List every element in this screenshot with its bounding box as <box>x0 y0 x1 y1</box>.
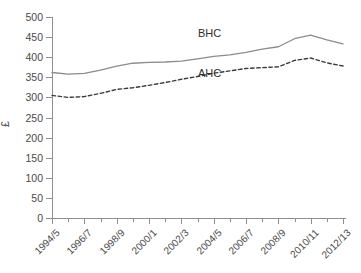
x-tick-mark-minor <box>101 219 102 222</box>
y-tick-label: 50 <box>3 193 43 203</box>
x-tick-label: 2002/3 <box>155 227 191 263</box>
x-tick-mark-minor <box>230 219 231 222</box>
series-annotation-bhc: BHC <box>198 27 221 39</box>
x-tick-label: 2006/7 <box>220 227 256 263</box>
y-tick-label: 300 <box>3 92 43 102</box>
line-chart: £ 050100150200250300350400450500 1994/51… <box>0 0 361 273</box>
x-tick-label: 2004/5 <box>188 227 224 263</box>
y-tick: 500 <box>0 12 52 22</box>
y-tick-label: 400 <box>3 52 43 62</box>
x-tick-mark-minor <box>165 219 166 222</box>
x-axis-line <box>52 218 346 219</box>
x-tick-label: 1996/7 <box>58 227 94 263</box>
y-tick: 250 <box>0 113 52 123</box>
x-tick-label: 2000/1 <box>123 227 159 263</box>
x-tick-label: 2008/9 <box>252 227 288 263</box>
x-tick-mark-major <box>343 219 344 224</box>
x-tick-mark-major <box>84 219 85 224</box>
y-tick-label: 450 <box>3 32 43 42</box>
x-tick-mark-major <box>117 219 118 224</box>
y-tick-label: 100 <box>3 173 43 183</box>
x-tick-mark-major <box>181 219 182 224</box>
y-tick: 400 <box>0 52 52 62</box>
x-tick-label: 2012/13 <box>317 227 353 263</box>
y-tick-label: 0 <box>3 213 43 223</box>
x-tick-mark-major <box>246 219 247 224</box>
x-tick-mark-minor <box>68 219 69 222</box>
y-tick-label: 250 <box>3 113 43 123</box>
y-tick: 200 <box>0 133 52 143</box>
y-tick: 350 <box>0 72 52 82</box>
plot-area <box>52 17 345 218</box>
x-tick-mark-minor <box>133 219 134 222</box>
y-tick: 100 <box>0 173 52 183</box>
y-tick: 450 <box>0 32 52 42</box>
y-tick: 50 <box>0 193 52 203</box>
y-tick-label: 150 <box>3 153 43 163</box>
x-tick-mark-minor <box>295 219 296 222</box>
y-tick: 0 <box>0 213 52 223</box>
x-tick-mark-major <box>278 219 279 224</box>
y-tick-label: 350 <box>3 72 43 82</box>
x-tick-mark-major <box>149 219 150 224</box>
x-tick-label: 1998/9 <box>91 227 127 263</box>
x-tick-mark-minor <box>198 219 199 222</box>
x-tick-label: 1994/5 <box>26 227 62 263</box>
series-lines <box>52 17 345 218</box>
y-tick: 300 <box>0 92 52 102</box>
x-tick-mark-major <box>52 219 53 224</box>
x-tick-mark-major <box>311 219 312 224</box>
x-tick-label: 2010/11 <box>285 227 321 263</box>
y-tick: 150 <box>0 153 52 163</box>
y-tick-label: 200 <box>3 133 43 143</box>
x-tick-mark-minor <box>262 219 263 222</box>
series-annotation-ahc: AHC <box>198 67 221 79</box>
x-tick-mark-minor <box>327 219 328 222</box>
x-tick-mark-major <box>214 219 215 224</box>
y-tick-label: 500 <box>3 12 43 22</box>
